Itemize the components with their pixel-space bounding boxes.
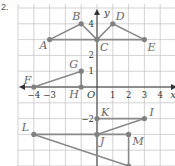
x-tick-label: 4 — [157, 90, 162, 100]
point-label-G: G — [69, 58, 78, 71]
y-axis-label: y — [103, 7, 110, 18]
point-M — [126, 132, 131, 137]
point-D — [110, 21, 115, 26]
point-label-A: A — [39, 39, 48, 52]
point-label-C: C — [100, 41, 109, 54]
point-L — [31, 132, 36, 137]
point-label-F: F — [23, 74, 32, 87]
x-tick-label: 2 — [126, 90, 131, 100]
point-G — [79, 69, 84, 74]
point-H — [79, 84, 84, 89]
y-tick-label: −2 — [81, 114, 94, 124]
point-label-L: L — [21, 121, 29, 134]
point-label-J: J — [98, 135, 105, 148]
segment-FG — [34, 71, 81, 87]
x-tick-label: −4 — [28, 90, 41, 100]
origin-label: O — [87, 89, 95, 100]
point-label-B: B — [71, 10, 80, 23]
point-label-D: D — [115, 10, 125, 23]
y-tick-label: 4 — [89, 19, 94, 29]
point-label-E: E — [146, 41, 155, 54]
point-E — [142, 37, 147, 42]
x-tick-label: −3 — [43, 90, 56, 100]
coordinate-plane: xyO−4−31234421−2ABCDEFGHIJKLMN — [0, 0, 175, 166]
y-axis-arrow-up-icon — [94, 9, 100, 15]
y-tick-label: 1 — [89, 66, 94, 76]
segment-IJ — [97, 119, 144, 135]
segment-CD — [97, 24, 113, 40]
x-tick-label: 3 — [142, 90, 147, 100]
point-label-M: M — [132, 135, 145, 148]
point-label-I: I — [148, 106, 154, 119]
point-N — [126, 163, 131, 166]
x-tick-label: 1 — [110, 90, 115, 100]
point-C — [94, 37, 99, 42]
point-label-H: H — [68, 88, 79, 101]
point-label-N: N — [132, 165, 143, 166]
point-J — [94, 132, 99, 137]
point-I — [142, 116, 147, 121]
point-A — [47, 37, 52, 42]
x-axis-label: x — [170, 89, 175, 100]
point-F — [31, 84, 36, 89]
point-label-K: K — [100, 106, 110, 119]
y-tick-label: 2 — [89, 50, 94, 60]
point-K — [94, 116, 99, 121]
